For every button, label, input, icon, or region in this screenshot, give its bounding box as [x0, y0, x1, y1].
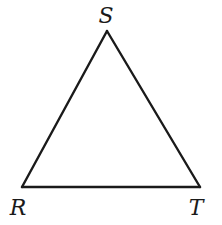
vertex-label-r: R	[9, 195, 27, 220]
triangle-diagram: S R T	[0, 0, 222, 225]
edge-st	[107, 31, 200, 187]
edge-rs	[22, 31, 107, 187]
vertex-label-t: T	[189, 195, 206, 220]
vertex-label-s: S	[98, 3, 113, 28]
